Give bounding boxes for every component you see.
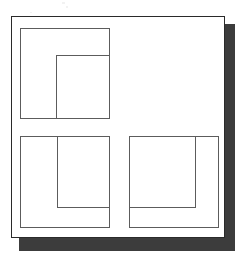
drawing-canvas — [0, 0, 246, 265]
inner-rect-top-left — [56, 55, 110, 119]
inner-rect-bottom-left — [57, 136, 110, 208]
scan-speckle — [62, 2, 65, 4]
scan-speckle — [66, 6, 68, 8]
scan-speckle — [30, 12, 32, 13]
inner-rect-bottom-right — [129, 136, 196, 208]
